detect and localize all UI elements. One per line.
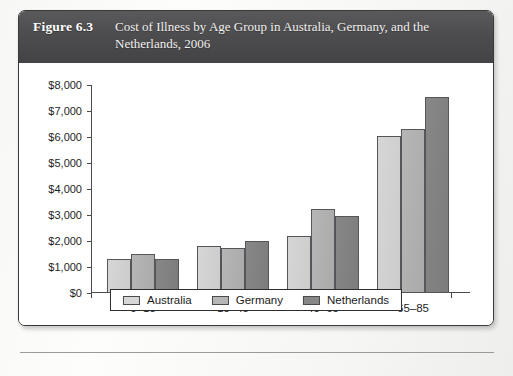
legend-item-netherlands: Netherlands (303, 294, 389, 306)
legend-swatch-icon (303, 296, 320, 305)
bar-australia-65-85 (377, 136, 401, 293)
legend-label: Germany (236, 294, 283, 306)
y-axis-tick-label: $0 (70, 287, 82, 299)
legend-swatch-icon (212, 296, 229, 305)
y-axis-tick (87, 111, 92, 112)
y-axis-tick (87, 85, 92, 86)
plot-area: $0$1,000$2,000$3,000$4,000$5,000$6,000$7… (91, 85, 463, 293)
y-axis-tick-label: $8,000 (48, 79, 82, 91)
bar-australia-45-65 (287, 236, 311, 293)
bar-netherlands-65-85 (425, 97, 449, 293)
y-axis-tick (87, 137, 92, 138)
legend-swatch-icon (123, 296, 140, 305)
y-axis-tick-label: $3,000 (48, 209, 82, 221)
bar-germany-65-85 (401, 129, 425, 293)
legend-label: Australia (147, 294, 192, 306)
y-axis-tick-label: $1,000 (48, 261, 82, 273)
chart-canvas: $0$1,000$2,000$3,000$4,000$5,000$6,000$7… (19, 63, 493, 325)
figure-title: Cost of Illness by Age Group in Australi… (115, 19, 479, 52)
y-axis-tick-label: $7,000 (48, 105, 82, 117)
figure-container: Figure 6.3 Cost of Illness by Age Group … (18, 10, 494, 326)
bar-netherlands-15-45 (245, 241, 269, 293)
legend-label: Netherlands (327, 294, 389, 306)
y-axis-tick-label: $2,000 (48, 235, 82, 247)
chart-legend: AustraliaGermanyNetherlands (110, 289, 402, 311)
bar-germany-0-15 (131, 254, 155, 293)
y-axis-tick (87, 215, 92, 216)
x-axis-tick (91, 293, 92, 298)
x-axis-tick (451, 293, 452, 298)
y-axis-tick-label: $4,000 (48, 183, 82, 195)
bar-australia-0-15 (107, 259, 131, 293)
y-axis-tick (87, 163, 92, 164)
y-axis-tick (87, 241, 92, 242)
legend-item-australia: Australia (123, 294, 192, 306)
y-axis-tick (87, 189, 92, 190)
bar-netherlands-0-15 (155, 259, 179, 293)
bar-germany-15-45 (221, 248, 245, 294)
figure-caption-banner: Figure 6.3 Cost of Illness by Age Group … (19, 11, 493, 63)
y-axis-tick-label: $5,000 (48, 157, 82, 169)
y-axis-tick-label: $6,000 (48, 131, 82, 143)
page-footer-rule (20, 352, 494, 353)
bar-germany-45-65 (311, 209, 335, 294)
y-axis-tick (87, 267, 92, 268)
legend-item-germany: Germany (212, 294, 283, 306)
bar-australia-15-45 (197, 246, 221, 293)
bar-netherlands-45-65 (335, 216, 359, 293)
figure-number-label: Figure 6.3 (33, 19, 115, 35)
